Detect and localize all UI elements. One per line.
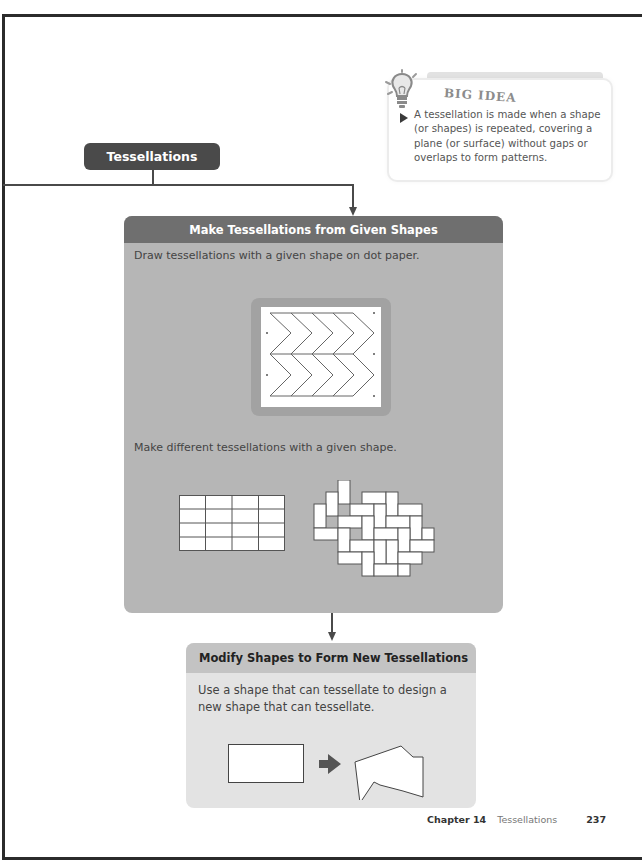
topic-pill: Tessellations xyxy=(84,143,220,170)
rectangle-to-new-shape-figure xyxy=(220,730,450,800)
footer-title: Tessellations xyxy=(497,814,557,825)
brick-grid-tessellation-figure xyxy=(179,495,285,551)
page-footer: Chapter 14 Tessellations 237 xyxy=(427,814,606,825)
connector-line xyxy=(352,184,354,208)
section-text: Use a shape that can tessellate to desig… xyxy=(198,683,447,697)
big-idea-text: A tessellation is made when a shape (or … xyxy=(414,108,610,166)
arrow-down-icon xyxy=(328,632,336,641)
bullet-triangle-icon xyxy=(400,113,408,123)
herringbone-tessellation-figure xyxy=(310,480,435,586)
page-number: 237 xyxy=(586,814,606,825)
connector-line xyxy=(3,184,354,186)
connector-line xyxy=(152,170,154,185)
section-header: Modify Shapes to Form New Tessellations xyxy=(186,643,476,673)
section-header: Make Tessellations from Given Shapes xyxy=(124,216,503,243)
footer-chapter: Chapter 14 xyxy=(427,814,486,825)
section-text: Make different tessellations with a give… xyxy=(134,441,397,454)
arrow-down-icon xyxy=(349,207,357,216)
chevron-tessellation-figure xyxy=(261,307,381,407)
connector-line xyxy=(331,613,333,633)
section-text: new shape that can tessellate. xyxy=(198,700,374,714)
lightbulb-icon xyxy=(382,68,422,112)
right-arrow-icon xyxy=(319,754,341,774)
section-text: Draw tessellations with a given shape on… xyxy=(134,249,419,262)
